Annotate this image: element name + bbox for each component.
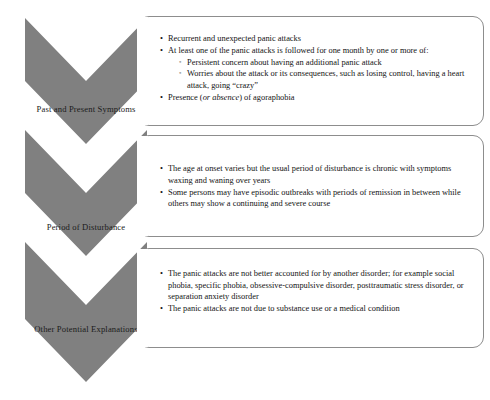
stage-label-3: Other Potential Explanations	[25, 324, 147, 336]
criteria-text-before: Presence (	[168, 93, 203, 102]
stage-chevron-past-and-present-symptoms: Past and Present Symptoms	[25, 18, 147, 144]
filled-bullet-icon: •	[160, 163, 163, 175]
criteria-text: The panic attacks are not due to substan…	[168, 304, 400, 313]
hollow-bullet-icon: ◦	[179, 57, 181, 69]
list-item: •Recurrent and unexpected panic attacks	[160, 33, 472, 45]
panic-disorder-criteria-diagram: Past and Present Symptoms Period of Dist…	[0, 0, 490, 400]
chevron-shape-icon	[25, 242, 147, 382]
criteria-text: Worries about the attack or its conseque…	[187, 69, 464, 90]
list-item: •The age at onset varies but the usual p…	[160, 163, 472, 186]
list-item: •Some persons may have episodic outbreak…	[160, 187, 472, 210]
criteria-sublist-1: ◦Persistent concern about having an addi…	[168, 57, 472, 92]
list-item: ◦Persistent concern about having an addi…	[168, 57, 472, 69]
chevron-shape-icon	[25, 18, 147, 144]
hollow-bullet-icon: ◦	[179, 68, 181, 80]
list-item: •Presence (or absence) of agoraphobia	[160, 92, 472, 104]
criteria-text-italic: or absence	[203, 93, 240, 102]
filled-bullet-icon: •	[160, 45, 163, 57]
list-item: •The panic attacks are not due to substa…	[160, 303, 472, 315]
criteria-text: The panic attacks are not better account…	[168, 269, 464, 301]
filled-bullet-icon: •	[160, 187, 163, 199]
criteria-text: Some persons may have episodic outbreaks…	[168, 188, 461, 209]
criteria-list-2: •The age at onset varies but the usual p…	[160, 163, 472, 211]
criteria-text: Persistent concern about having an addit…	[187, 58, 382, 67]
criteria-list-3: •The panic attacks are not better accoun…	[160, 268, 472, 316]
stage-label-2: Period of Disturbance	[25, 222, 147, 234]
filled-bullet-icon: •	[160, 268, 163, 280]
filled-bullet-icon: •	[160, 33, 163, 45]
list-item: •The panic attacks are not better accoun…	[160, 268, 472, 303]
criteria-text: Recurrent and unexpected panic attacks	[168, 34, 301, 43]
stage-chevron-other-potential-explanations: Other Potential Explanations	[25, 242, 147, 382]
criteria-text: At least one of the panic attacks is fol…	[168, 46, 428, 55]
list-item: •At least one of the panic attacks is fo…	[160, 45, 472, 91]
criteria-list-1: •Recurrent and unexpected panic attacks …	[160, 33, 472, 104]
criteria-text: The age at onset varies but the usual pe…	[168, 164, 451, 185]
box-left-edge-mask	[137, 17, 148, 125]
criteria-text-after: ) of agoraphobia	[239, 93, 294, 102]
filled-bullet-icon: •	[160, 92, 163, 104]
box-left-edge-mask	[137, 136, 148, 236]
chevron-shape-icon	[25, 130, 147, 256]
stage-label-1: Past and Present Symptoms	[25, 104, 147, 116]
filled-bullet-icon: •	[160, 303, 163, 315]
list-item: ◦Worries about the attack or its consequ…	[168, 68, 472, 91]
box-left-edge-mask	[137, 249, 148, 347]
stage-chevron-period-of-disturbance: Period of Disturbance	[25, 130, 147, 256]
